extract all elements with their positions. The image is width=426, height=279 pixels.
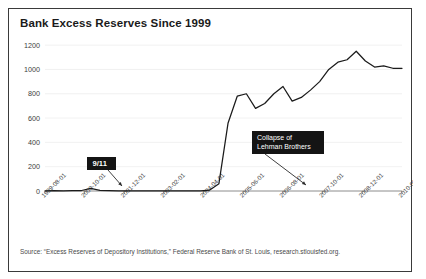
chart-figure: Bank Excess Reserves Since 1999 02004006…	[8, 8, 412, 272]
annotation-label: 9/11	[93, 159, 108, 168]
y-axis-tick-label: 1000	[24, 65, 40, 74]
y-axis-tick-label: 600	[28, 114, 40, 123]
y-axis-tick-label: 400	[28, 138, 40, 147]
y-axis-labels-group: 020040060080010001200	[24, 41, 40, 196]
annotation-label: Lehman Brothers	[257, 143, 311, 150]
x-axis-tick-label: 2005-06-01	[238, 171, 266, 199]
x-axis-tick-label: 2006-08-01	[278, 171, 306, 199]
plot-area: 020040060080010001200 1999-08-012000-10-…	[9, 9, 413, 273]
x-axis-tick-label: 1999-08-01	[40, 171, 68, 199]
x-axis-tick-label: 2008-12-01	[357, 171, 385, 199]
x-axis-tick-label: 2001-12-01	[119, 171, 147, 199]
chart-svg: 020040060080010001200 1999-08-012000-10-…	[9, 9, 413, 273]
annotations-group: 9/11Collapse ofLehman Brothers	[87, 131, 324, 186]
y-axis-tick-label: 1200	[24, 41, 40, 50]
x-axis-tick-label: 2010-02-01	[397, 171, 413, 199]
x-axis-tick-label: 2004-04-01	[198, 171, 226, 199]
x-axis-tick-label: 2003-02-01	[159, 171, 187, 199]
source-note: Source: “Excess Reserves of Depository I…	[20, 248, 340, 255]
y-axis-tick-label: 800	[28, 89, 40, 98]
x-axis-tick-label: 2000-10-01	[79, 171, 107, 199]
x-axis-labels-group: 1999-08-012000-10-012001-12-012003-02-01…	[40, 171, 413, 199]
annotation-label: Collapse of	[257, 134, 292, 142]
y-axis-tick-label: 200	[28, 162, 40, 171]
x-axis-tick-label: 2007-10-01	[317, 171, 345, 199]
annotation-leader-line	[265, 154, 306, 185]
